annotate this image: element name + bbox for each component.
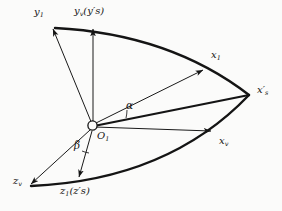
axis-label-zv: zv xyxy=(13,176,22,186)
axis-label-y1: y1 xyxy=(34,7,44,17)
diagram-canvas xyxy=(0,0,282,211)
axis-ray-xv xyxy=(95,127,211,131)
generator-line-to-xs-prime xyxy=(94,95,249,126)
origin-marker xyxy=(88,121,97,130)
angle-label-beta: β xyxy=(74,140,80,151)
axis-ray-zv xyxy=(31,130,90,184)
axis-label-xs-prime: x′s xyxy=(257,85,268,95)
axis-label-xv: xv xyxy=(219,136,228,146)
axis-label-x1: x1 xyxy=(211,50,221,60)
angle-label-alpha: α xyxy=(126,100,133,111)
coordinate-rotation-diagram: y1 yv(y′s) x1 x′s xv zv z1(z′s) α β O1 xyxy=(0,0,282,211)
axis-ray-y1 xyxy=(53,29,92,124)
axis-label-yv-ys-prime: yv(y′s) xyxy=(74,6,104,16)
axis-label-z1-zs-prime: z1(z′s) xyxy=(60,186,90,196)
origin-label: O1 xyxy=(97,131,109,141)
angle-arc-alpha xyxy=(126,110,127,118)
lower-boundary-arc xyxy=(31,95,249,186)
